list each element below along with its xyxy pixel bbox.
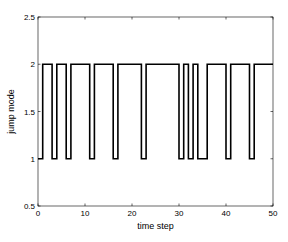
y-axis-label: jump mode [6,89,16,135]
x-tick-label: 50 [269,209,278,218]
y-tick-label: 1 [31,155,36,164]
x-tick-label: 0 [36,209,41,218]
x-tick-label: 40 [222,209,231,218]
y-tick-label: 1.5 [24,108,36,117]
plot-area [38,17,273,206]
x-tick-label: 10 [81,209,90,218]
x-tick-label: 30 [175,209,184,218]
y-tick-label: 2 [31,60,36,69]
y-tick-label: 0.5 [24,202,36,211]
x-tick-label: 20 [128,209,137,218]
y-tick-label: 2.5 [24,13,36,22]
step-chart: 01020304050 0.511.522.5 time step jump m… [0,0,288,242]
x-axis-label: time step [137,221,174,231]
